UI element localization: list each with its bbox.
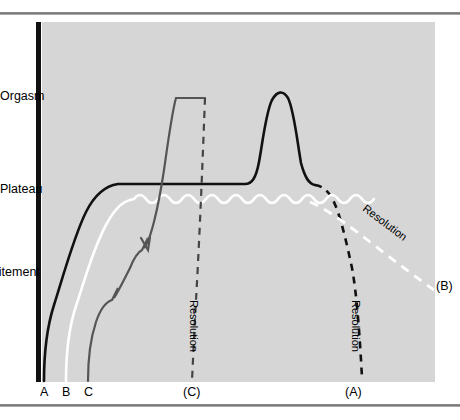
resolution-label-a: Resolution [350, 300, 362, 352]
curve-a-path [44, 93, 315, 381]
resolution-label-c: Resolution [188, 300, 200, 352]
sexual-response-cycle-figure: Orgasm Plateau Excitement A B C (C) (A) … [0, 0, 460, 420]
curves-svg [0, 0, 460, 420]
curve-b-path [66, 195, 374, 381]
